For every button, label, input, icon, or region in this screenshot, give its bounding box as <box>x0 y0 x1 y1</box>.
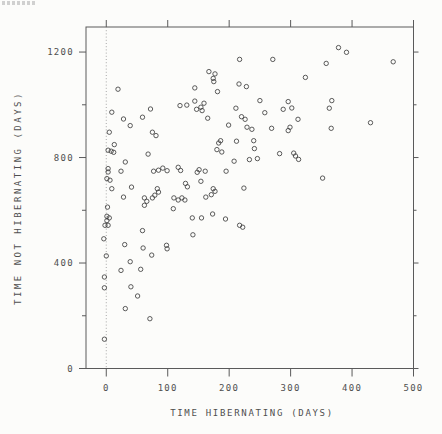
data-point <box>277 151 281 155</box>
data-point <box>107 130 111 134</box>
data-point <box>207 69 211 73</box>
data-point <box>281 107 285 111</box>
data-point <box>102 337 106 341</box>
data-point <box>258 98 262 102</box>
y-axis-label: TIME NOT HIBERNATING (DAYS) <box>13 91 23 305</box>
data-point <box>203 169 207 173</box>
x-tick-label: 200 <box>219 383 239 393</box>
data-point <box>204 195 208 199</box>
data-point <box>391 60 395 64</box>
data-point <box>220 150 224 154</box>
data-point <box>123 242 127 246</box>
data-point <box>150 253 154 257</box>
x-tick-label: 400 <box>342 383 362 393</box>
data-point <box>139 267 143 271</box>
data-point <box>303 75 307 79</box>
data-point <box>141 246 145 250</box>
data-point <box>194 107 198 111</box>
data-point <box>271 57 275 61</box>
data-point <box>135 294 139 298</box>
data-point <box>215 89 219 93</box>
data-point <box>172 196 176 200</box>
data-point <box>247 157 251 161</box>
data-point <box>119 268 123 272</box>
data-point <box>368 121 372 125</box>
data-point <box>150 130 154 134</box>
data-point <box>193 99 197 103</box>
axis-ticks <box>79 20 419 377</box>
y-tick-label: 1200 <box>47 47 74 57</box>
data-point <box>154 133 158 137</box>
data-point <box>269 126 273 130</box>
data-point <box>206 116 210 120</box>
data-point <box>224 169 228 173</box>
data-point <box>153 193 157 197</box>
data-point <box>129 185 133 189</box>
data-point <box>212 79 216 83</box>
data-point <box>243 117 247 121</box>
data-point <box>329 126 333 130</box>
data-point <box>190 216 194 220</box>
data-point <box>121 195 125 199</box>
data-point <box>199 216 203 220</box>
data-point <box>105 218 109 222</box>
data-point <box>123 306 127 310</box>
data-point <box>185 185 189 189</box>
data-point <box>252 139 256 143</box>
data-point <box>146 152 150 156</box>
data-point <box>215 147 219 151</box>
data-point <box>202 101 206 105</box>
data-point <box>252 146 256 150</box>
scatter-chart: 010020030040050004008001200 TIME HIBERNA… <box>0 0 442 434</box>
data-point <box>193 86 197 90</box>
data-point <box>176 198 180 202</box>
data-point <box>171 207 175 211</box>
data-point <box>234 139 238 143</box>
data-point <box>123 160 127 164</box>
data-point <box>242 186 246 190</box>
data-point <box>148 317 152 321</box>
data-point <box>151 169 155 173</box>
x-tick-label: 300 <box>281 383 301 393</box>
data-point <box>110 187 114 191</box>
y-tick-label: 0 <box>67 364 74 374</box>
data-point <box>128 260 132 264</box>
data-point <box>320 176 324 180</box>
data-point <box>226 123 230 127</box>
data-point <box>140 115 144 119</box>
x-axis-label: TIME HIBERNATING (DAYS) <box>170 408 334 418</box>
data-point <box>237 82 241 86</box>
data-point <box>165 169 169 173</box>
data-point <box>232 159 236 163</box>
data-point <box>296 157 300 161</box>
x-tick-label: 500 <box>403 383 423 393</box>
data-point <box>223 217 227 221</box>
data-point <box>210 212 214 216</box>
data-point <box>178 103 182 107</box>
data-point <box>290 106 294 110</box>
data-point <box>199 179 203 183</box>
data-point <box>296 117 300 121</box>
data-point <box>245 125 249 129</box>
data-point <box>263 111 267 115</box>
data-point <box>112 142 116 146</box>
data-point <box>110 110 114 114</box>
data-point <box>344 50 348 54</box>
data-point <box>140 228 144 232</box>
data-point <box>161 166 165 170</box>
data-point <box>234 106 238 110</box>
data-point <box>102 237 106 241</box>
plot-frame <box>86 27 414 369</box>
data-point <box>150 196 154 200</box>
data-point <box>156 168 160 172</box>
y-tick-label: 800 <box>54 153 74 163</box>
data-point <box>213 72 217 76</box>
data-point <box>148 107 152 111</box>
y-tick-label: 400 <box>54 258 74 268</box>
data-point <box>191 233 195 237</box>
data-point <box>121 117 125 121</box>
data-points <box>102 45 396 341</box>
data-point <box>237 57 241 61</box>
data-point <box>119 169 123 173</box>
x-tick-label: 100 <box>158 383 178 393</box>
